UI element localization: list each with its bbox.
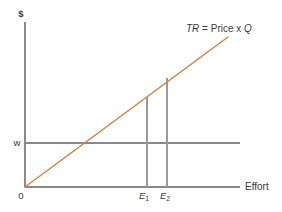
annotation-q-symbol: Q	[244, 23, 252, 34]
annotation-equation-text: = Price x	[199, 23, 244, 34]
origin-label: 0	[18, 190, 23, 201]
wage-label: w	[13, 137, 21, 148]
annotation-tr-symbol: TR	[186, 23, 199, 34]
tick-label-e2: E2	[160, 190, 170, 202]
total-revenue-annotation: TR = Price x Q	[186, 23, 252, 34]
y-axis-label: $	[18, 8, 24, 19]
x-axis-label: Effort	[245, 181, 269, 192]
total-revenue-chart: $ Effort 0 w E1 E2 TR = Price x Q	[0, 0, 282, 212]
total-revenue-line	[25, 37, 228, 187]
tick-label-e1: E1	[139, 190, 149, 202]
tick-label-e1-subscript: 1	[145, 195, 149, 202]
tick-label-e2-subscript: 2	[166, 195, 170, 202]
figure-container: $ Effort 0 w E1 E2 TR = Price x Q	[0, 0, 282, 212]
